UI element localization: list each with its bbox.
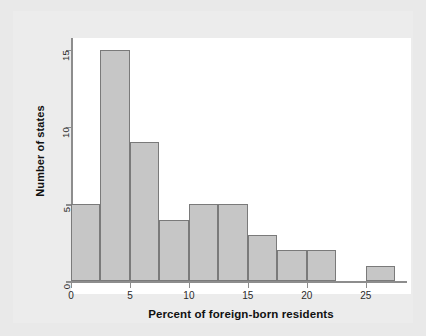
x-axis-title: Percent of foreign-born residents bbox=[71, 308, 411, 320]
y-tick-label: 15 bbox=[61, 50, 72, 61]
x-tick-label: 0 bbox=[68, 290, 74, 301]
histogram-bar bbox=[100, 50, 129, 282]
figure: Number of states Percent of foreign-born… bbox=[0, 0, 426, 336]
histogram-bar bbox=[307, 250, 336, 281]
figure-panel: Number of states Percent of foreign-born… bbox=[13, 11, 413, 323]
x-tick bbox=[307, 283, 308, 288]
histogram-bar bbox=[277, 250, 306, 281]
histogram-bar bbox=[71, 204, 100, 281]
histogram-bar bbox=[189, 204, 218, 281]
x-tick bbox=[189, 283, 190, 288]
histogram-bar bbox=[248, 235, 277, 281]
histogram-bar bbox=[218, 204, 247, 281]
y-tick-label: 10 bbox=[61, 127, 72, 138]
x-tick bbox=[71, 283, 72, 288]
x-axis-line bbox=[71, 281, 407, 283]
histogram-bar bbox=[366, 266, 395, 281]
y-tick-label: 5 bbox=[61, 207, 72, 212]
x-tick-label: 20 bbox=[301, 290, 312, 301]
x-tick-label: 5 bbox=[127, 290, 133, 301]
x-tick-label: 15 bbox=[242, 290, 253, 301]
x-tick bbox=[130, 283, 131, 288]
x-tick-label: 25 bbox=[360, 290, 371, 301]
plot-area: 051015 0510152025 bbox=[71, 38, 411, 294]
histogram-bar bbox=[130, 142, 159, 281]
histogram-bar bbox=[159, 220, 188, 282]
x-tick bbox=[366, 283, 367, 288]
y-tick-label: 0 bbox=[61, 284, 72, 289]
x-tick bbox=[248, 283, 249, 288]
x-tick-label: 10 bbox=[183, 290, 194, 301]
y-axis-title: Number of states bbox=[34, 105, 46, 196]
